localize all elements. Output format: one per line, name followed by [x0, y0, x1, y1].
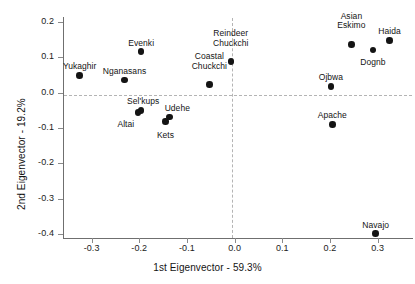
data-point[interactable]	[328, 83, 335, 90]
data-point[interactable]	[135, 109, 142, 116]
data-point[interactable]	[329, 121, 336, 128]
plot-area	[63, 18, 411, 238]
x-tick-label: -0.2	[119, 243, 159, 253]
data-point[interactable]	[372, 230, 379, 237]
y-axis-line	[63, 17, 64, 239]
data-point[interactable]	[206, 81, 213, 88]
data-point[interactable]	[228, 58, 235, 65]
y-tick-mark	[58, 234, 63, 235]
x-axis-title: 1st Eigenvector - 59.3%	[0, 262, 415, 273]
y-tick-label: 0.2	[24, 16, 54, 26]
data-point-label: Kets	[157, 131, 174, 141]
data-point-label: Haida	[378, 27, 400, 37]
data-point[interactable]	[348, 41, 355, 48]
y-tick-label: -0.2	[24, 157, 54, 167]
data-point-label: Udehe	[165, 104, 190, 114]
data-point[interactable]	[121, 77, 128, 84]
data-point-label: Dognb	[360, 58, 385, 68]
data-point[interactable]	[386, 37, 393, 44]
data-point-label: Asian Eskimo	[337, 12, 365, 31]
data-point[interactable]	[76, 72, 83, 79]
y-tick-label: 0.1	[24, 51, 54, 61]
x-axis-line	[63, 238, 413, 239]
data-point-label: Sel'kups	[127, 97, 159, 107]
x-tick-label: 0.1	[262, 243, 302, 253]
y-tick-label: -0.3	[24, 193, 54, 203]
y-tick-label: -0.1	[24, 122, 54, 132]
x-tick-label: 0.0	[215, 243, 255, 253]
y-tick-mark	[58, 22, 63, 23]
x-tick-label: 0.2	[310, 243, 350, 253]
data-point-label: Apache	[318, 111, 347, 121]
y-tick-mark	[58, 128, 63, 129]
y-tick-mark	[58, 93, 63, 94]
y-tick-mark	[58, 199, 63, 200]
data-point-label: Nganasans	[103, 67, 146, 77]
x-tick-label: -0.1	[167, 243, 207, 253]
x-tick-label: -0.3	[72, 243, 112, 253]
data-point-label: Coastal Chuckchi	[192, 52, 227, 71]
zero-horizontal-reference-line	[64, 95, 412, 96]
data-point-label: Evenki	[128, 39, 154, 49]
y-tick-label: -0.4	[24, 228, 54, 238]
data-point-label: Reindeer Chuckchi	[213, 29, 248, 48]
y-axis-title: 2nd Eigenvector - 19.2%	[16, 98, 27, 210]
data-point[interactable]	[162, 118, 169, 125]
x-tick-label: 0.3	[358, 243, 398, 253]
data-point-label: Yukaghir	[63, 62, 96, 72]
scatter-plot-figure: 0.20.10.0-0.1-0.2-0.3-0.4-0.3-0.2-0.10.0…	[0, 0, 415, 284]
y-tick-mark	[58, 57, 63, 58]
y-tick-mark	[58, 163, 63, 164]
y-tick-label: 0.0	[24, 87, 54, 97]
zero-vertical-reference-line	[232, 18, 233, 238]
data-point-label: Ojbwa	[319, 73, 343, 83]
data-point-label: Navajo	[362, 221, 389, 231]
data-point-label: Altai	[117, 120, 134, 130]
